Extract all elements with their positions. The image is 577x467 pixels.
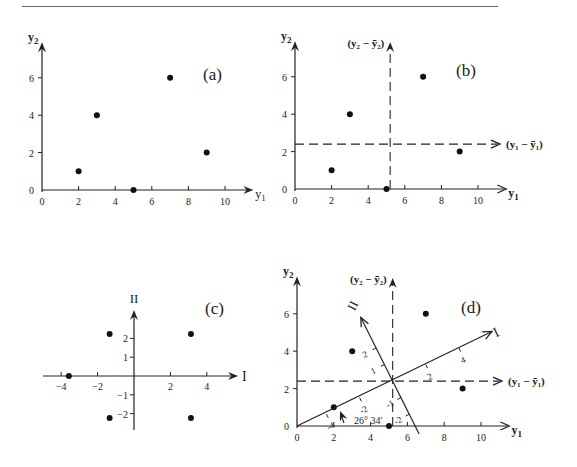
panel-label: (b): [456, 61, 476, 80]
data-point: [107, 331, 113, 337]
x-tick-label: 8: [186, 196, 191, 207]
y-tick-label: 4: [284, 346, 289, 357]
data-point: [349, 348, 355, 354]
data-point: [107, 415, 113, 421]
data-point: [384, 186, 390, 192]
principal-axis-I: [297, 331, 492, 426]
x-tick-label: 4: [113, 196, 118, 207]
arrowhead-icon: [340, 411, 347, 422]
tick-label-II: -1: [384, 398, 395, 410]
x-tick-label: 8: [439, 195, 444, 206]
y-tick-label: 2: [282, 147, 287, 158]
tick-label-I: 4: [204, 381, 209, 392]
data-point: [347, 111, 353, 117]
centered-axis-label-2: (y₂ − ȳ₂): [347, 37, 384, 50]
x-tick-label: 4: [366, 195, 371, 206]
tick-label-II: -2: [393, 414, 404, 426]
x-tick-label: 0: [295, 432, 300, 443]
angle-label: 26° 34′: [354, 415, 383, 426]
tick-label-II: 2: [361, 349, 369, 360]
axis-label: y2: [281, 29, 292, 45]
panel-c: III−4−224−2−112(c): [43, 291, 247, 430]
data-point: [457, 149, 463, 155]
data-point: [420, 74, 426, 80]
tick-label-II: 1: [369, 365, 377, 376]
data-point: [131, 187, 137, 193]
data-point: [167, 75, 173, 81]
x-tick-label: 8: [442, 432, 447, 443]
tick-label-II: 1: [123, 352, 128, 363]
y-tick-label: 6: [284, 309, 289, 320]
y-tick-label: 0: [284, 421, 289, 432]
y-tick-label: 4: [29, 110, 34, 121]
data-point: [460, 386, 466, 392]
axis-label-II: II: [130, 291, 139, 306]
axis-label: y1: [511, 423, 522, 439]
centered-axis-label-2: (y₂ − ȳ₂): [350, 273, 387, 286]
axis-label-II: II: [344, 298, 361, 313]
panel-a: 02468100246y1y2(a): [28, 30, 266, 207]
y-tick-label: 2: [29, 148, 34, 159]
data-point: [76, 168, 82, 174]
x-tick-label: 2: [329, 195, 334, 206]
tick-label-I: −2: [92, 381, 103, 392]
x-tick-label: 10: [220, 196, 230, 207]
y-tick-label: 0: [282, 184, 287, 195]
data-point: [386, 423, 392, 429]
y-tick-label: 4: [282, 109, 287, 120]
axis-label: y1: [255, 187, 265, 203]
panel-d: 02468100246y1y2(d)(y₁ − ȳ₁)(y₂ − ȳ₂)III-…: [283, 264, 545, 443]
tick-label-II: 2: [123, 333, 128, 344]
y-tick-label: 0: [29, 185, 34, 196]
centered-axis-label-1: (y₁ − ȳ₁): [508, 375, 545, 388]
panel-label: (a): [203, 65, 222, 84]
x-tick-label: 10: [476, 432, 486, 443]
tick-label-II: −2: [117, 409, 128, 420]
x-tick-label: 4: [368, 432, 373, 443]
figure: 02468100246y1y2(a)02468100246y1y2(b)(y₁ …: [0, 0, 577, 467]
tick-label-I: 2: [168, 381, 173, 392]
tick-label-I: -2: [358, 404, 369, 416]
y-tick-label: 6: [29, 73, 34, 84]
tick-label-II: −1: [117, 390, 128, 401]
y-tick-label: 6: [282, 72, 287, 83]
arrowhead-icon: [389, 278, 397, 288]
axis-label: y2: [283, 264, 294, 280]
axis-label-I: I: [242, 369, 247, 384]
axis-label: y1: [508, 186, 519, 202]
x-tick-label: 2: [76, 196, 81, 207]
data-point: [188, 331, 194, 337]
arrowhead-icon: [386, 42, 394, 52]
axis-label-I: I: [491, 324, 502, 340]
panel-label: (c): [205, 299, 224, 318]
panel-label: (d): [461, 298, 481, 317]
panel-b: 02468100246y1y2(b)(y₁ − ȳ₁)(y₂ − ȳ₂): [281, 29, 543, 206]
x-tick-label: 6: [402, 195, 407, 206]
data-point: [329, 167, 335, 173]
data-point: [204, 150, 210, 156]
x-tick-label: 6: [149, 196, 154, 207]
tick-label-I: 2: [426, 371, 434, 382]
x-tick-label: 10: [473, 195, 483, 206]
data-point: [94, 112, 100, 118]
x-tick-label: 2: [331, 432, 336, 443]
data-point: [66, 373, 72, 379]
data-point: [188, 415, 194, 421]
y-tick-label: 2: [284, 384, 289, 395]
x-tick-label: 0: [40, 196, 45, 207]
data-point: [423, 311, 429, 317]
x-tick-label: 0: [293, 195, 298, 206]
tick-label-I: 4: [459, 354, 468, 365]
axis-label: y2: [28, 30, 39, 46]
centered-axis-label-1: (y₁ − ȳ₁): [506, 138, 543, 151]
tick-label-I: −4: [56, 381, 67, 392]
x-tick-label: 6: [405, 432, 410, 443]
